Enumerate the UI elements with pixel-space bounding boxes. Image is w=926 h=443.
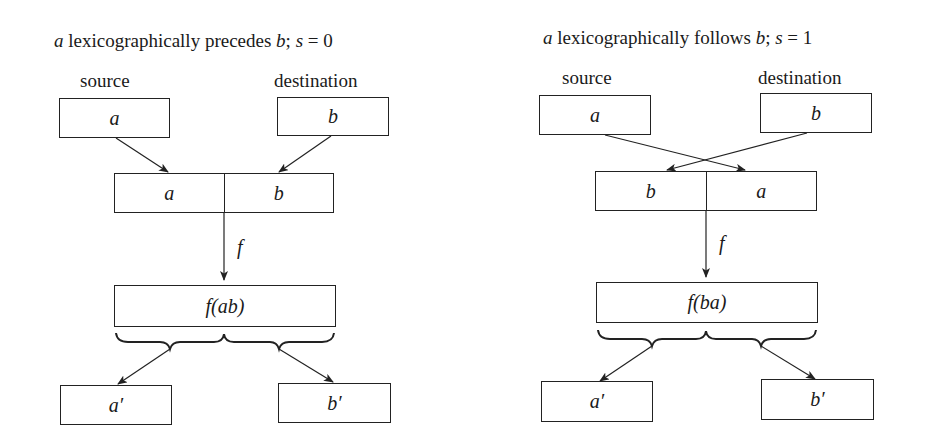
arrow-source-to-concat [116, 138, 168, 172]
concat-box: a b [114, 173, 334, 213]
arrow-to-a-prime [118, 349, 170, 384]
function-label: f [719, 232, 725, 255]
destination-box: b [277, 97, 389, 136]
arrow-to-b-prime [761, 346, 815, 379]
destination-label: destination [758, 67, 841, 89]
output-b-prime-box: b′ [761, 379, 874, 420]
concat-right-cell: a [706, 172, 817, 210]
right-title: a lexicographically follows b; s = 1 [543, 27, 812, 49]
source-box: a [539, 95, 651, 135]
concat-left-cell: b [596, 172, 706, 210]
destination-label: destination [274, 70, 357, 92]
function-label: f [237, 236, 243, 259]
brace-split [116, 333, 334, 349]
source-label: source [562, 67, 612, 89]
source-box: a [59, 98, 170, 138]
concat-right-cell: b [224, 174, 334, 212]
destination-box: b [760, 93, 872, 133]
output-b-prime-box: b′ [278, 383, 391, 423]
concat-box: b a [595, 171, 817, 211]
result-box: f(ba) [596, 282, 818, 323]
result-box: f(ab) [114, 285, 336, 327]
output-a-prime-box: a′ [60, 385, 172, 425]
left-title: a lexicographically precedes b; s = 0 [54, 30, 333, 52]
brace-split [598, 330, 816, 346]
arrow-to-b-prime [279, 349, 333, 382]
output-a-prime-box: a′ [541, 381, 653, 422]
arrow-destination-to-concat [279, 136, 331, 172]
arrow-source-to-concat-right [605, 135, 745, 170]
arrow-destination-to-concat-left [667, 133, 807, 170]
source-label: source [80, 70, 130, 92]
concat-left-cell: a [115, 174, 224, 212]
arrow-to-a-prime [600, 346, 652, 381]
